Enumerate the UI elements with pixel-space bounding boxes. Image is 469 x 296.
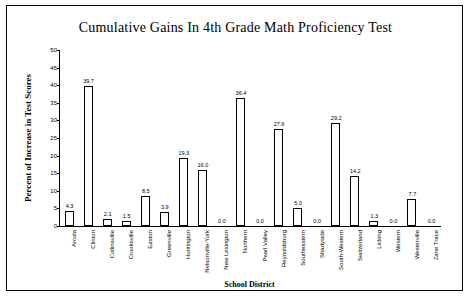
bar-value-label: 8.5 [142,188,150,194]
bar-slot: 2.1 [101,50,115,226]
chart-title: Cumulative Gains In 4th Grade Math Profi… [7,20,464,36]
bar-value-label: 27.6 [274,121,285,127]
bar[interactable] [65,211,74,226]
bar-slot: 0.0 [386,50,400,226]
bar-slot: 27.6 [272,50,286,226]
bar-slot: 7.7 [405,50,419,226]
bar[interactable] [198,170,207,226]
y-tick-label: 25 [50,135,57,141]
x-tick-label: Reynoldsburg [281,230,287,267]
bar-value-label: 3.9 [161,204,169,210]
bar-slot: 0.0 [215,50,229,226]
bar-value-label: 4.3 [66,203,74,209]
bar-value-label: 36.4 [236,90,247,96]
y-tick-mark [57,68,60,69]
x-tick-label: Arcola [71,230,77,247]
chart-page: Cumulative Gains In 4th Grade Math Profi… [0,0,469,296]
x-tick-label: Huntington [185,230,191,259]
bar-value-label: 0.0 [218,218,226,224]
bar[interactable] [179,158,188,226]
x-tick-label: Westerville [414,230,420,259]
bar-slot: 36.4 [234,50,248,226]
bar-value-label: 0.0 [313,218,321,224]
x-tick-label: Licking [376,230,382,249]
y-axis-label: Percent of Increase in Test Scores [21,50,35,226]
bar[interactable] [293,208,302,226]
bar-value-label: 0.0 [428,218,436,224]
y-axis-label-text: Percent of Increase in Test Scores [23,74,33,202]
x-axis-label: School District [59,280,440,289]
x-tick-label: Greenville [166,230,172,257]
y-tick-label: 45 [50,65,57,71]
y-tick-label: 50 [50,47,57,53]
x-tick-label: Crooksville [128,230,134,259]
x-tick-label: Clinton [90,230,96,249]
y-tick-mark [57,226,60,227]
bar-value-label: 14.2 [350,168,361,174]
bar-slot: 4.3 [63,50,77,226]
x-tick-label: New Lexington [223,230,229,270]
bar-slot: 14.2 [348,50,362,226]
bar[interactable] [331,123,340,226]
bar-slot: 39.7 [82,50,96,226]
bar-value-label: 0.0 [256,218,264,224]
bar[interactable] [407,199,416,226]
bar-slot: 19.3 [177,50,191,226]
y-tick-mark [57,191,60,192]
bar-slot: 0.0 [310,50,324,226]
bar-value-label: 19.3 [178,150,189,156]
bar-slot: 29.2 [329,50,343,226]
y-tick-label: 40 [50,82,57,88]
y-tick-mark [57,50,60,51]
x-tick-label: Zane Trace [433,230,439,260]
y-tick-label: 35 [50,100,57,106]
x-tick-label: Collinsville [109,230,115,258]
y-tick-mark [57,138,60,139]
x-tick-label: Pearl Valley [262,230,268,262]
x-tick-label: Western [395,230,401,252]
x-tick-label: Switzerland [357,230,363,261]
y-tick-label: 20 [50,153,57,159]
y-tick-mark [57,208,60,209]
y-tick-label: 30 [50,117,57,123]
bar-value-label: 7.7 [409,191,417,197]
bar-slot: 5.0 [291,50,305,226]
bar-value-label: 16.0 [198,162,209,168]
bar-value-label: 29.2 [331,115,342,121]
chart-frame: Cumulative Gains In 4th Grade Math Profi… [6,5,463,291]
bar-slot: 0.0 [253,50,267,226]
bar[interactable] [236,98,245,226]
y-tick-mark [57,156,60,157]
bar-value-label: 39.7 [83,78,94,84]
y-tick-mark [57,85,60,86]
bar-value-label: 0.0 [390,218,398,224]
bar[interactable] [160,212,169,226]
bar[interactable] [274,129,283,226]
x-tick-label: Northern [242,230,248,253]
bar-slot: 3.9 [158,50,172,226]
bar-value-label: 5.0 [294,200,302,206]
bar-slot: 8.5 [139,50,153,226]
bar[interactable] [141,196,150,226]
bar-slot: 1.3 [367,50,381,226]
bar[interactable] [84,86,93,226]
bar[interactable] [369,221,378,226]
x-tick-label: Southeastern [300,230,306,266]
bar[interactable] [103,219,112,226]
x-tick-label: South-Western [338,230,344,270]
x-tick-label: Shadyside [319,230,325,258]
bar[interactable] [122,221,131,226]
bar-slot: 0.0 [424,50,438,226]
plot-area: 051015202530354045504.339.72.11.58.53.91… [59,50,441,227]
bar-value-label: 2.1 [104,211,112,217]
bar-value-label: 1.5 [123,213,131,219]
y-tick-mark [57,103,60,104]
bar-value-label: 1.3 [370,213,378,219]
y-tick-mark [57,173,60,174]
bar-slot: 16.0 [196,50,210,226]
y-tick-mark [57,120,60,121]
x-tick-label: Easton [147,230,153,249]
bar[interactable] [350,176,359,226]
x-tick-label: Nelsonville-York [204,230,210,273]
bar-slot: 1.5 [120,50,134,226]
